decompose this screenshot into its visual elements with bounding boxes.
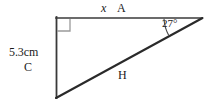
label-opposite-length: 5.3cm bbox=[9, 46, 38, 58]
label-angle-value: 27° bbox=[162, 18, 177, 29]
label-opposite-name: C bbox=[24, 61, 32, 73]
triangle-side-hypotenuse bbox=[56, 18, 203, 98]
triangle-diagram: x A 5.3cm C H 27° bbox=[0, 0, 209, 110]
label-adjacent-unknown: x bbox=[101, 2, 106, 14]
label-adjacent-name: A bbox=[117, 2, 126, 14]
right-angle-marker-icon bbox=[57, 19, 70, 31]
label-hypotenuse-name: H bbox=[118, 69, 127, 81]
